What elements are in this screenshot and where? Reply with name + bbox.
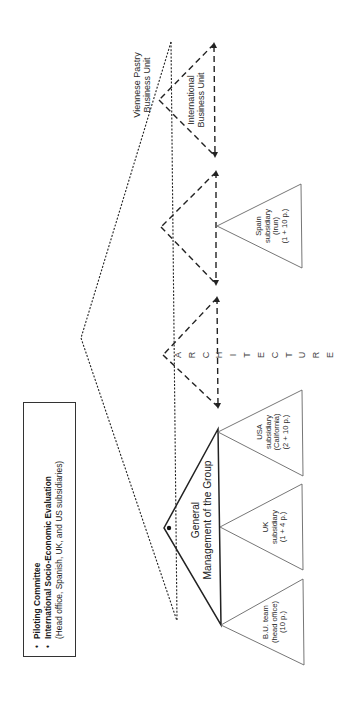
viennese-pastry-bu-outline <box>81 42 177 621</box>
viennese-pastry-bu-label: Viennese Pastry Business Unit <box>132 35 152 135</box>
bullet-icon: • <box>32 639 43 648</box>
uk-subsidiary-label: UK subsidiary (1 + 4 p.) <box>262 491 288 563</box>
legend-item-piloting-committee: •Piloting Committee <box>32 408 43 648</box>
apex-dot <box>167 526 171 530</box>
architecture-label: A R C H I T E C T U R E <box>173 349 335 361</box>
usa-subsidiary-label: USA subsidiary (California) (2 + 10 p.) <box>256 396 290 468</box>
legend-content: •Piloting Committee •International Socio… <box>32 408 65 648</box>
international-bu-label: International Business Unit <box>186 50 206 150</box>
dashed-triangle-2 <box>161 172 216 284</box>
spain-subsidiary-label: Spain subsidiary (Irun) (1 + 10 p.) <box>255 190 289 262</box>
legend-note: (Head office, Spanish, UK, and US subsid… <box>54 408 65 648</box>
legend-item-socio-economic-evaluation: •International Socio-Economic Evaluation <box>43 408 54 648</box>
bu-team-label: B.U. team (head office) (10 p.) <box>262 586 288 658</box>
bullet-icon: • <box>43 639 54 648</box>
general-management-label: General Management of the Group <box>190 450 214 590</box>
